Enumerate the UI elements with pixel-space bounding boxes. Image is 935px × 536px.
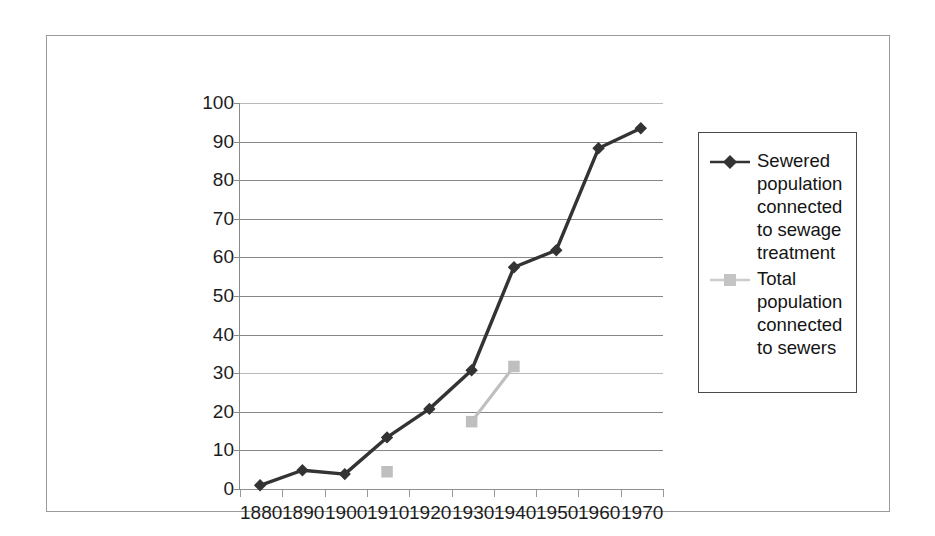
y-tick-mark-60: [234, 257, 240, 258]
y-tick-label-60: 60: [188, 247, 234, 266]
x-tick-mark-5: [452, 490, 453, 497]
square-marker-icon: [466, 416, 478, 428]
x-tick-label-1880: 1880: [240, 502, 282, 524]
diamond-marker-icon: [381, 431, 393, 443]
x-tick-label-1930: 1930: [452, 502, 494, 524]
x-tick-label-1960: 1960: [578, 502, 620, 524]
y-tick-label-70: 70: [188, 209, 234, 228]
y-tick-mark-30: [234, 373, 240, 374]
series-0-segment: [345, 437, 387, 474]
y-tick-label-40: 40: [188, 325, 234, 344]
x-tick-mark-3: [367, 490, 368, 497]
x-tick-mark-8: [578, 490, 579, 497]
series-0-segment: [429, 370, 471, 409]
y-tick-label-80: 80: [188, 170, 234, 189]
legend-label-1: Total population connected to sewers: [757, 267, 857, 359]
gridline-50: [240, 296, 663, 297]
series-0-segment: [260, 470, 302, 485]
diamond-marker-icon: [508, 261, 520, 273]
y-tick-label-50: 50: [188, 286, 234, 305]
chart-frame: 0102030405060708090100 18801890190019101…: [46, 35, 890, 512]
y-tick-label-20: 20: [188, 402, 234, 421]
gridline-30: [240, 373, 663, 374]
series-0-segment: [599, 128, 641, 148]
x-tick-label-1940: 1940: [494, 502, 536, 524]
y-tick-label-10: 10: [188, 440, 234, 459]
series-1-segment: [472, 366, 514, 421]
gridline-80: [240, 180, 663, 181]
x-tick-label-1900: 1900: [325, 502, 367, 524]
diamond-marker-icon: [296, 464, 308, 476]
y-tick-label-90: 90: [188, 132, 234, 151]
gridline-90: [240, 142, 663, 143]
gridline-70: [240, 219, 663, 220]
gridline-40: [240, 335, 663, 336]
gridline-10: [240, 450, 663, 451]
y-tick-label-0: 0: [188, 479, 234, 498]
series-0-segment: [556, 148, 598, 250]
series-0-segment: [302, 470, 344, 474]
x-tick-label-1950: 1950: [536, 502, 578, 524]
diamond-marker-icon: [465, 364, 477, 376]
diamond-marker-icon: [550, 244, 563, 256]
y-tick-mark-20: [234, 412, 240, 413]
gridline-60: [240, 257, 663, 258]
diamond-marker-icon: [708, 154, 752, 170]
series-0-segment: [387, 409, 429, 438]
y-tick-label-100: 100: [188, 93, 234, 112]
y-tick-mark-90: [234, 142, 240, 143]
square-marker-icon: [708, 272, 752, 288]
square-marker-icon: [381, 466, 393, 478]
y-tick-mark-40: [234, 335, 240, 336]
x-tick-mark-4: [409, 490, 410, 497]
x-tick-label-1970: 1970: [621, 502, 663, 524]
diamond-marker-icon: [635, 122, 647, 134]
y-tick-mark-80: [234, 180, 240, 181]
x-tick-mark-2: [325, 490, 326, 497]
gridline-20: [240, 412, 663, 413]
x-tick-mark-0: [240, 490, 241, 497]
gridline-100: [240, 103, 663, 104]
y-tick-mark-50: [234, 296, 240, 297]
x-tick-label-1910: 1910: [367, 502, 409, 524]
x-tick-label-1890: 1890: [282, 502, 324, 524]
diamond-marker-icon: [339, 468, 351, 480]
x-tick-mark-7: [536, 490, 537, 497]
x-tick-mark-1: [282, 490, 283, 497]
x-tick-mark-6: [494, 490, 495, 497]
x-tick-label-1920: 1920: [409, 502, 451, 524]
diamond-marker-icon: [423, 403, 435, 415]
y-tick-mark-10: [234, 450, 240, 451]
chart-figure: 0102030405060708090100 18801890190019101…: [0, 0, 935, 536]
x-tick-mark-10: [663, 490, 664, 497]
x-tick-mark-9: [621, 490, 622, 497]
y-tick-mark-70: [234, 219, 240, 220]
diamond-marker-icon: [592, 142, 605, 154]
legend-label-0: Sewered population connected to sewage t…: [757, 149, 857, 264]
y-tick-mark-100: [234, 103, 240, 104]
square-marker-icon: [508, 361, 520, 373]
y-axis-tick-labels: 0102030405060708090100: [178, 36, 234, 511]
series-0-segment: [514, 250, 556, 267]
y-tick-label-30: 30: [188, 363, 234, 382]
series-0-segment: [472, 267, 514, 370]
chart-legend: Sewered population connected to sewage t…: [698, 132, 857, 393]
